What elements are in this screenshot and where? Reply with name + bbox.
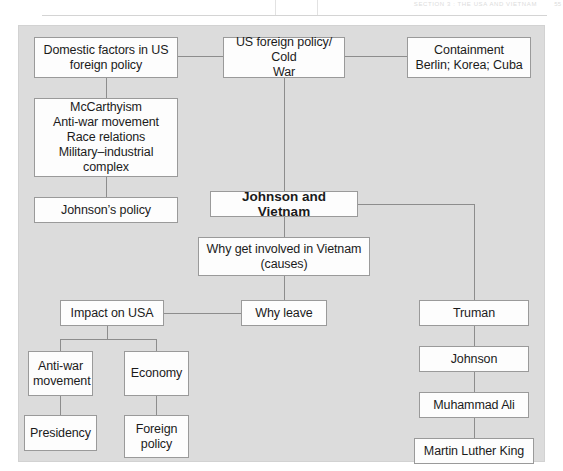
- node-johnsons-policy-label: Johnson’s policy: [39, 203, 173, 218]
- node-containment-label: Containment Berlin; Korea; Cuba: [412, 43, 526, 73]
- node-johnson-label: Johnson: [424, 352, 524, 367]
- header-tick-right: [317, 0, 318, 15]
- node-anti-war-movement-label: Anti-war movement: [33, 359, 88, 389]
- node-muhammad-ali[interactable]: Muhammad Ali: [419, 392, 529, 418]
- node-truman-label: Truman: [424, 306, 524, 321]
- node-johnson-vietnam-label: Johnson and Vietnam: [215, 189, 353, 219]
- header-page-number: 55: [554, 1, 561, 7]
- edge-branch-to-antiwar: [60, 339, 61, 351]
- node-mccarthyism[interactable]: McCarthyism Anti-war movement Race relat…: [34, 98, 178, 177]
- edge-truman-to-johnson: [474, 326, 475, 346]
- edge-johnson-to-ali: [474, 372, 475, 392]
- node-domestic-factors-label: Domestic factors in US foreign policy: [39, 43, 173, 73]
- node-anti-war-movement[interactable]: Anti-war movement: [28, 351, 93, 396]
- edge-ali-to-mlk: [474, 418, 475, 438]
- node-us-foreign-policy-label: US foreign policy/ Cold War: [228, 35, 340, 80]
- node-economy-label: Economy: [129, 366, 184, 381]
- edge-economy-to-foreignpolicy: [156, 396, 157, 415]
- edge-johnsonvietnam-to-truman-h: [358, 204, 474, 205]
- header-title: SECTION 3 : THE USA AND VIETNAM: [414, 1, 537, 7]
- edge-johnsonvietnam-to-truman-v: [474, 204, 475, 300]
- node-presidency-label: Presidency: [29, 426, 92, 441]
- edge-impactusa-branch-bar: [60, 339, 156, 340]
- page-header: SECTION 3 : THE USA AND VIETNAM 55: [0, 0, 563, 18]
- edge-impactusa-stem: [107, 326, 108, 339]
- edge-antiwar-to-presidency: [60, 396, 61, 415]
- node-why-involved-label: Why get involved in Vietnam (causes): [203, 242, 365, 272]
- node-impact-usa[interactable]: Impact on USA: [60, 300, 164, 326]
- node-johnson-vietnam[interactable]: Johnson and Vietnam: [210, 191, 358, 217]
- node-martin-luther-king[interactable]: Martin Luther King: [414, 438, 534, 464]
- node-truman[interactable]: Truman: [419, 300, 529, 326]
- edge-branch-to-economy: [156, 339, 157, 351]
- header-rule: [42, 15, 547, 16]
- diagram-panel: Domestic factors in US foreign policy US…: [18, 25, 545, 462]
- node-economy[interactable]: Economy: [124, 351, 189, 396]
- node-why-leave[interactable]: Why leave: [241, 300, 327, 326]
- node-impact-usa-label: Impact on USA: [65, 306, 159, 321]
- edge-domestic-to-mccarthyism: [106, 78, 107, 98]
- node-us-foreign-policy[interactable]: US foreign policy/ Cold War: [223, 37, 345, 78]
- node-why-leave-label: Why leave: [246, 306, 322, 321]
- node-foreign-policy[interactable]: Foreign policy: [124, 415, 189, 458]
- node-presidency[interactable]: Presidency: [24, 415, 97, 451]
- edge-whyleave-to-impactusa: [164, 313, 241, 314]
- node-johnson[interactable]: Johnson: [419, 346, 529, 372]
- node-martin-luther-king-label: Martin Luther King: [419, 444, 529, 459]
- header-tick-left: [275, 0, 276, 15]
- node-mccarthyism-label: McCarthyism Anti-war movement Race relat…: [39, 100, 173, 175]
- node-muhammad-ali-label: Muhammad Ali: [424, 398, 524, 413]
- edge-domestic-to-usforeign: [178, 56, 223, 57]
- edge-mccarthyism-to-johnsonspolicy: [106, 177, 107, 197]
- node-johnsons-policy[interactable]: Johnson’s policy: [34, 197, 178, 223]
- edge-whyinvolved-to-whyleave: [284, 276, 285, 300]
- node-containment[interactable]: Containment Berlin; Korea; Cuba: [407, 37, 531, 78]
- node-domestic-factors[interactable]: Domestic factors in US foreign policy: [34, 37, 178, 78]
- node-foreign-policy-label: Foreign policy: [129, 422, 184, 452]
- edge-usforeign-to-johnsonvietnam: [284, 78, 285, 191]
- edge-usforeign-to-containment: [345, 56, 407, 57]
- node-why-involved[interactable]: Why get involved in Vietnam (causes): [198, 237, 370, 276]
- edge-johnsonvietnam-to-whyinvolved: [284, 217, 285, 237]
